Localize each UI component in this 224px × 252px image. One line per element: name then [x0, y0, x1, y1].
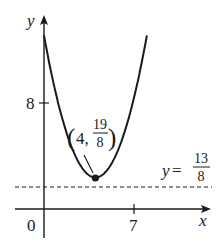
- vertex-x: 4,: [76, 129, 89, 148]
- equation-lhs: y: [160, 161, 170, 180]
- vertex-annotation: ( 4, 19 8 ): [67, 117, 116, 152]
- equation-equals: =: [172, 161, 182, 180]
- y-axis-label: y: [25, 11, 35, 30]
- x-axis-label: x: [198, 211, 207, 230]
- x-tick-label-7: 7: [129, 216, 138, 235]
- parabola-curve: [44, 36, 147, 178]
- close-paren: ): [108, 124, 116, 152]
- vertex-numerator: 19: [93, 117, 107, 132]
- vertex-point: [92, 174, 99, 181]
- vertex-leader-line: [84, 155, 93, 173]
- open-paren: (: [67, 124, 75, 152]
- equation-numerator: 13: [194, 151, 208, 166]
- vertex-denominator: 8: [97, 135, 104, 150]
- origin-label: 0: [27, 216, 36, 235]
- function-graph: y x 0 7 8 ( 4, 19 8 ) y = 13 8: [0, 0, 224, 252]
- y-tick-label-8: 8: [26, 94, 35, 113]
- line-equation-label: y = 13 8: [160, 151, 210, 184]
- equation-denominator: 8: [198, 169, 205, 184]
